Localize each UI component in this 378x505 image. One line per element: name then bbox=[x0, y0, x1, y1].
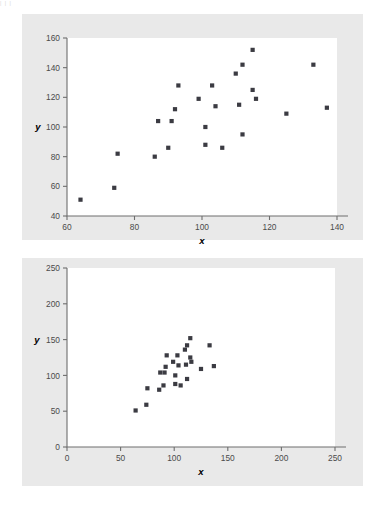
data-point bbox=[173, 107, 177, 111]
x-axis-tick-label: 150 bbox=[221, 453, 235, 463]
data-point bbox=[173, 382, 177, 386]
data-point bbox=[179, 383, 183, 387]
data-point bbox=[78, 198, 82, 202]
data-point bbox=[234, 72, 238, 76]
x-axis-tick-label: 50 bbox=[116, 453, 126, 463]
data-point bbox=[284, 112, 288, 116]
y-axis-tick-label: 140 bbox=[46, 63, 60, 73]
figure-page: 4060801001201401606080100120140yx 050100… bbox=[0, 0, 378, 505]
x-axis-tick-label: 120 bbox=[263, 222, 277, 232]
data-point bbox=[203, 125, 207, 129]
data-point bbox=[188, 355, 192, 359]
y-axis-tick-label: 160 bbox=[46, 33, 60, 43]
scatterplot-bottom: 050100150200250050100150200250yx bbox=[22, 258, 363, 486]
x-axis-tick-label: 100 bbox=[167, 453, 181, 463]
chart-panel-top: 4060801001201401606080100120140yx bbox=[22, 14, 363, 240]
data-point bbox=[173, 373, 177, 377]
data-point bbox=[203, 143, 207, 147]
y-axis-tick-label: 60 bbox=[51, 181, 61, 191]
data-point bbox=[207, 343, 211, 347]
data-point bbox=[145, 386, 149, 390]
data-point bbox=[325, 106, 329, 110]
data-point bbox=[213, 104, 217, 108]
plot-area-background bbox=[67, 268, 335, 447]
x-axis-tick-label: 200 bbox=[274, 453, 288, 463]
data-point bbox=[134, 408, 138, 412]
data-point bbox=[175, 353, 179, 357]
data-point bbox=[116, 152, 120, 156]
y-axis-tick-label: 100 bbox=[46, 371, 60, 381]
y-axis-tick-label: 150 bbox=[46, 335, 60, 345]
plot-area-background bbox=[67, 38, 337, 216]
data-point bbox=[153, 155, 157, 159]
x-axis-tick-label: 80 bbox=[130, 222, 140, 232]
data-point bbox=[156, 119, 160, 123]
x-axis-title: x bbox=[198, 235, 205, 246]
data-point bbox=[240, 63, 244, 67]
data-point bbox=[188, 336, 192, 340]
data-point bbox=[166, 146, 170, 150]
data-point bbox=[165, 353, 169, 357]
data-point bbox=[199, 367, 203, 371]
x-axis-title: x bbox=[197, 466, 204, 477]
data-point bbox=[171, 360, 175, 364]
data-point bbox=[212, 364, 216, 368]
data-point bbox=[210, 83, 214, 87]
y-axis-tick-label: 50 bbox=[51, 406, 61, 416]
data-point bbox=[144, 403, 148, 407]
data-point bbox=[112, 186, 116, 190]
data-point bbox=[158, 370, 162, 374]
data-point bbox=[189, 360, 193, 364]
data-point bbox=[164, 365, 168, 369]
data-point bbox=[240, 132, 244, 136]
data-point bbox=[170, 119, 174, 123]
data-point bbox=[185, 343, 189, 347]
data-point bbox=[185, 377, 189, 381]
y-axis-tick-label: 200 bbox=[46, 299, 60, 309]
y-axis-tick-label: 250 bbox=[46, 263, 60, 273]
x-axis-tick-label: 60 bbox=[62, 222, 72, 232]
y-axis-tick-label: 0 bbox=[55, 442, 60, 452]
y-axis-tick-label: 40 bbox=[51, 211, 61, 221]
data-point bbox=[251, 48, 255, 52]
y-axis-tick-label: 80 bbox=[51, 152, 61, 162]
y-axis-tick-label: 100 bbox=[46, 122, 60, 132]
scatterplot-top: 4060801001201401606080100120140yx bbox=[22, 14, 363, 240]
data-point bbox=[184, 363, 188, 367]
y-axis-title: y bbox=[34, 121, 41, 132]
data-point bbox=[183, 348, 187, 352]
y-axis-title: y bbox=[33, 334, 40, 345]
x-axis-tick-label: 100 bbox=[195, 222, 209, 232]
data-point bbox=[311, 63, 315, 67]
x-axis-tick-label: 0 bbox=[65, 453, 70, 463]
data-point bbox=[251, 88, 255, 92]
data-point bbox=[162, 370, 166, 374]
data-point bbox=[157, 388, 161, 392]
chart-panel-bottom: 050100150200250050100150200250yx bbox=[22, 258, 363, 486]
y-axis-tick-label: 120 bbox=[46, 92, 60, 102]
page-corner-marks: | | | bbox=[0, 0, 12, 6]
data-point bbox=[176, 363, 180, 367]
data-point bbox=[197, 97, 201, 101]
x-axis-tick-label: 250 bbox=[328, 453, 342, 463]
data-point bbox=[161, 383, 165, 387]
data-point bbox=[176, 83, 180, 87]
data-point bbox=[237, 103, 241, 107]
data-point bbox=[220, 146, 224, 150]
data-point bbox=[254, 97, 258, 101]
x-axis-tick-label: 140 bbox=[330, 222, 344, 232]
